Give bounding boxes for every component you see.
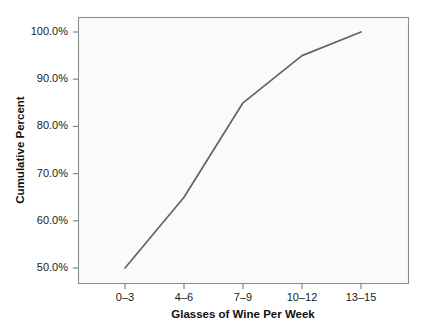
cumulative-percent-line-chart: 100.0% 90.0% 80.0% 70.0% 60.0% 50.0% 0–3… [0,0,425,330]
x-tick-label-0: 0–3 [116,291,134,303]
x-tick-label-4: 13–15 [346,291,377,303]
y-tick-label-100: 100.0% [31,25,69,37]
y-tick-label-50: 50.0% [37,261,68,273]
x-tick-label-3: 10–12 [287,291,318,303]
y-tick-label-80: 80.0% [37,119,68,131]
x-tick-label-2: 7–9 [234,291,252,303]
y-axis-title: Cumulative Percent [14,96,26,204]
x-tick-label-1: 4–6 [175,291,193,303]
x-axis-title: Glasses of Wine Per Week [171,308,315,320]
chart-container: 100.0% 90.0% 80.0% 70.0% 60.0% 50.0% 0–3… [0,0,425,330]
y-tick-label-60: 60.0% [37,214,68,226]
plot-area-frame [79,18,409,284]
y-tick-label-70: 70.0% [37,167,68,179]
y-tick-label-90: 90.0% [37,72,68,84]
